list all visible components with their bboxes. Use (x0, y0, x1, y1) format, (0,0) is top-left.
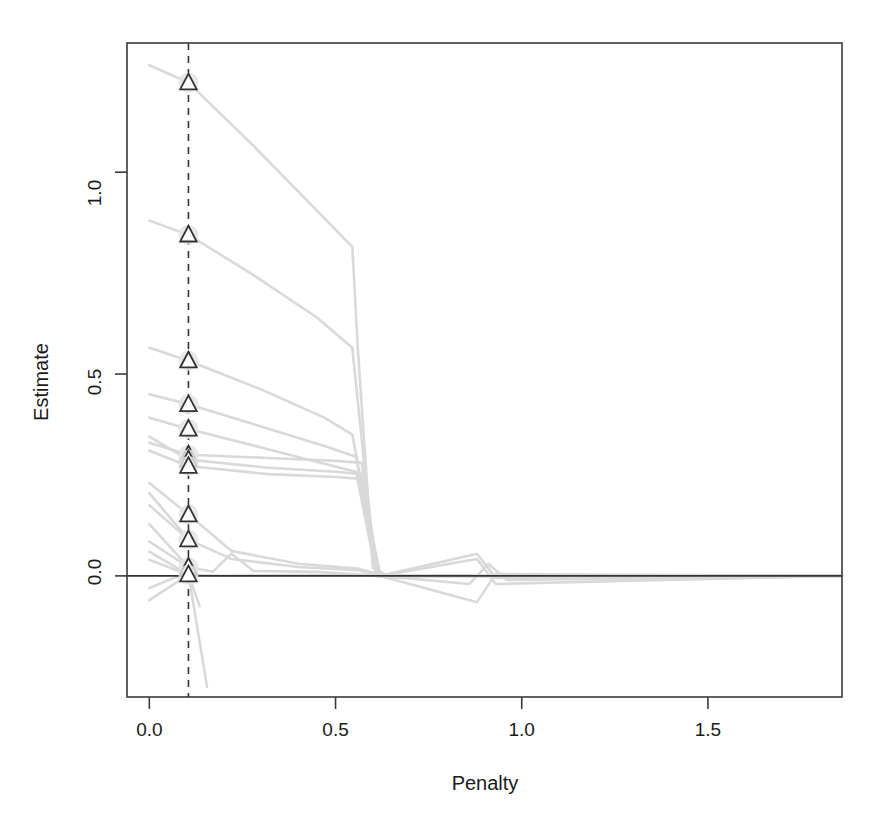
y-tick-label-0: 0.0 (84, 559, 105, 585)
x-tick-label-3: 1.5 (695, 719, 721, 740)
chart-background (0, 0, 870, 826)
y-tick-label-2: 1.0 (84, 180, 105, 206)
y-axis-title: Estimate (30, 343, 52, 421)
x-tick-label-2: 1.0 (509, 719, 535, 740)
x-tick-label-0: 0.0 (136, 719, 162, 740)
x-axis-title: Penalty (452, 772, 519, 794)
estimate-vs-penalty-chart: 0.0 0.5 1.0 1.5 0.0 0.5 1.0 Penalty Esti… (0, 0, 870, 826)
y-tick-label-1: 0.5 (84, 369, 105, 395)
chart-container: 0.0 0.5 1.0 1.5 0.0 0.5 1.0 Penalty Esti… (0, 0, 870, 826)
x-tick-label-1: 0.5 (322, 719, 348, 740)
